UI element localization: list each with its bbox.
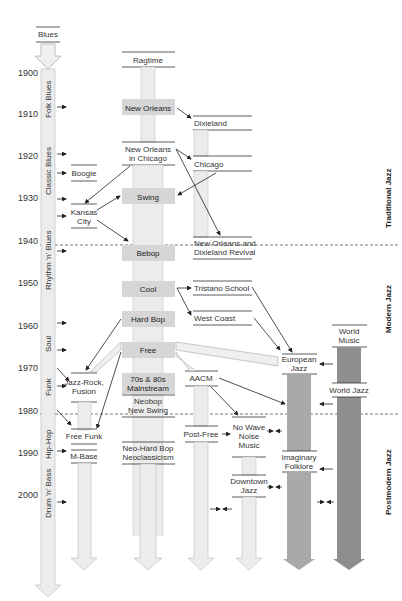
diagram-canvas: Blues 1900 1910 1920 1930 1940 1950 1960…: [0, 0, 402, 601]
svg-text:New Swing: New Swing: [128, 406, 168, 415]
svg-text:Neoclassicism: Neoclassicism: [122, 453, 173, 462]
svg-text:Noise: Noise: [239, 432, 260, 441]
style-m-base: M-Base: [70, 452, 98, 461]
svg-text:Jazz: Jazz: [291, 364, 307, 373]
style-kansas-city: Kansas: [71, 208, 98, 217]
svg-text:1980: 1980: [18, 406, 38, 416]
blues-dnb: Drum 'n' Bass: [44, 469, 53, 518]
svg-text:1900: 1900: [18, 68, 38, 78]
blues-rnb: Rhythm 'n' Blues: [44, 230, 53, 290]
svg-text:City: City: [77, 217, 91, 226]
svg-text:1970: 1970: [18, 363, 38, 373]
fusion-column: [71, 463, 97, 570]
style-imaginary-folklore: Imaginary: [281, 453, 316, 462]
svg-text:Jazz: Jazz: [241, 486, 257, 495]
style-boogie: Boogie: [72, 169, 97, 178]
style-neo-hard-bop: Neo-Hard Bop: [122, 444, 174, 453]
era-traditional-jazz: Traditional Jazz: [384, 168, 393, 228]
svg-text:Folklore: Folklore: [285, 462, 314, 471]
style-neobop: Neobop: [134, 397, 163, 406]
svg-text:Bebop: Bebop: [136, 249, 160, 258]
style-tristano-school: Tristano School: [194, 284, 250, 293]
era-postmodern-jazz: Postmodern Jazz: [384, 449, 393, 515]
blues-influence-arrows: [57, 107, 71, 502]
style-free-funk: Free Funk: [66, 432, 103, 441]
style-west-coast: West Coast: [194, 314, 236, 323]
blues-soul: Soul: [44, 336, 53, 352]
style-revival: New Orleans and: [194, 239, 256, 248]
svg-text:New Orleans: New Orleans: [125, 104, 171, 113]
svg-text:Swing: Swing: [137, 193, 159, 202]
aacm-column: [188, 442, 214, 570]
svg-text:2000: 2000: [18, 490, 38, 500]
style-world-music: World: [339, 327, 360, 336]
style-jazz-rock-fusion: Jazz-Rock,: [64, 378, 104, 387]
svg-text:Dixieland Revival: Dixieland Revival: [194, 248, 256, 257]
svg-text:1920: 1920: [18, 151, 38, 161]
style-new-orleans-chicago: New Orleans: [125, 145, 171, 154]
world-column: [337, 347, 361, 554]
style-chicago: Chicago: [194, 160, 224, 169]
style-aacm: AACM: [189, 374, 212, 383]
svg-text:1960: 1960: [18, 321, 38, 331]
svg-text:1990: 1990: [18, 448, 38, 458]
origin-blues: Blues: [38, 30, 58, 39]
style-post-free: Post-Free: [183, 430, 219, 439]
style-no-wave: No Wave: [233, 423, 266, 432]
style-world-jazz: World Jazz: [329, 386, 368, 395]
era-modern-jazz: Modern Jazz: [384, 285, 393, 333]
style-ragtime: Ragtime: [133, 56, 163, 65]
svg-text:1940: 1940: [18, 236, 38, 246]
blues-arrow-icon: [35, 44, 61, 69]
svg-text:Free: Free: [140, 346, 157, 355]
blues-classic: Classic Blues: [44, 147, 53, 195]
svg-text:1930: 1930: [18, 193, 38, 203]
svg-text:Hard Bop: Hard Bop: [131, 315, 165, 324]
svg-text:in Chicago: in Chicago: [129, 154, 167, 163]
svg-text:1950: 1950: [18, 278, 38, 288]
blues-funk: Funk: [44, 377, 53, 396]
style-european-jazz: European: [282, 355, 317, 364]
svg-text:Mainstream: Mainstream: [127, 384, 169, 393]
svg-text:Fusion: Fusion: [72, 387, 96, 396]
svg-text:Cool: Cool: [140, 285, 157, 294]
no-wave-column: [236, 497, 262, 570]
svg-text:70s & 80s: 70s & 80s: [130, 375, 166, 384]
style-dixieland: Dixieland: [194, 119, 227, 128]
blues-folk: Folk Blues: [44, 81, 53, 118]
svg-text:1910: 1910: [18, 109, 38, 119]
jazz-history-diagram: Blues 1900 1910 1920 1930 1940 1950 1960…: [0, 0, 402, 601]
svg-text:Music: Music: [339, 336, 360, 345]
style-downtown-jazz: Downtown: [230, 477, 267, 486]
blues-hiphop: Hip-Hop: [44, 429, 53, 459]
year-axis: 1900 1910 1920 1930 1940 1950 1960 1970 …: [18, 68, 38, 500]
svg-text:Music: Music: [239, 441, 260, 450]
